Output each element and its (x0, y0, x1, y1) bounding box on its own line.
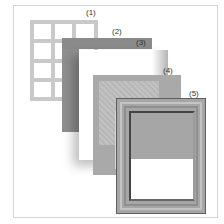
grid-pane (34, 43, 51, 59)
grid-pane (34, 82, 51, 97)
grid-pane (76, 24, 94, 39)
layer-5-frame (116, 98, 206, 214)
label-3: (3) (136, 39, 146, 47)
label-2: (2) (112, 28, 122, 36)
label-1: (1) (86, 9, 96, 17)
frame-opening (129, 111, 195, 201)
grid-pane (34, 24, 51, 39)
label-5: (5) (189, 90, 199, 98)
grid-pane (34, 63, 51, 78)
layer-2-vertical-bar (62, 38, 79, 132)
grid-pane (55, 24, 72, 39)
label-4: (4) (163, 67, 173, 75)
